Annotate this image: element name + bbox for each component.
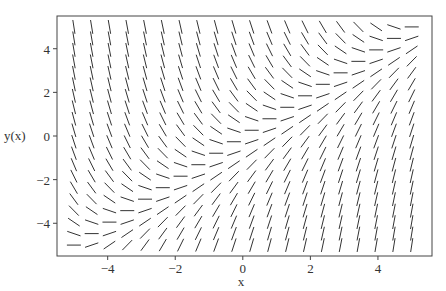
plot-frame [57,16,432,256]
slope-segment [160,89,165,102]
slope-segment [316,94,329,99]
slope-segment [408,67,416,78]
slope-segment [247,91,257,101]
slope-segment [193,125,203,135]
slope-segment [285,181,290,194]
slope-segment [212,102,220,113]
slope-segment [140,160,150,170]
slope-segment [177,113,184,125]
y-tick-label: 0 [44,129,51,144]
slope-segment [231,67,237,80]
slope-segment [71,158,76,171]
slope-segment [159,136,167,147]
slope-segment [283,148,291,159]
slope-segment [104,241,116,249]
slope-segment [301,44,309,55]
slope-segment [193,138,205,146]
slope-segment [391,101,397,114]
slope-segment [409,101,414,114]
slope-segment [71,147,76,160]
slope-segment [371,79,381,89]
y-tick-label: −4 [36,216,50,231]
slope-segment [122,240,132,250]
slope-segment [372,90,380,101]
slope-segment [388,57,400,65]
slope-segment [390,90,397,102]
slope-segment [88,182,96,193]
slope-segment [409,90,415,103]
slope-segment [139,218,151,226]
slope-segment [69,206,79,216]
slope-segment [210,172,222,180]
slope-segment [373,101,380,113]
slope-segment [282,68,292,78]
slope-segment [211,114,221,124]
slope-segment [302,21,308,34]
slope-segment [227,151,240,156]
slope-segment [249,43,254,56]
slope-segment [160,112,166,125]
slope-segment [213,227,218,240]
slope-segment [353,91,363,101]
slope-segment [407,56,417,66]
slope-segment [160,101,165,114]
slope-segment [139,172,151,180]
slope-segment [264,92,276,100]
slope-segment [176,206,186,216]
slope-segment [336,113,344,124]
slope-segment [370,36,383,41]
slope-segment [232,238,236,251]
slope-segment [337,124,344,136]
slope-segment [107,124,112,137]
slope-segment [265,159,273,170]
slope-segment [210,126,222,134]
slope-segment [107,135,112,148]
slope-segment [232,227,237,240]
slope-segment [143,101,148,114]
slope-segment [194,113,202,124]
y-tick-label: 4 [44,42,51,57]
slope-segment [106,159,113,171]
slope-segment [138,208,151,213]
slope-segment [210,162,223,167]
slope-segment [264,138,276,146]
slope-segment [281,126,293,134]
slope-segment [267,204,272,217]
slope-segment [89,147,94,160]
slope-segment [230,78,237,90]
slope-segment [248,171,256,182]
slope-segment [122,171,132,181]
slope-segment [267,193,272,206]
slope-segment [353,80,365,88]
slope-segment [246,103,258,111]
slope-segment [318,45,328,55]
slope-segment [213,66,218,79]
slope-segment [265,79,275,89]
slope-segment [334,82,347,87]
slope-segment [141,136,148,148]
slope-segment [317,103,329,111]
slope-segment [299,115,311,123]
slope-segment [156,197,169,202]
slope-segment [231,216,236,229]
slope-segment [156,174,169,179]
slope-segment [354,102,362,113]
slope-segment [265,148,275,158]
slope-segment [320,170,325,183]
slope-segment [142,124,148,137]
slope-segment [249,55,255,68]
slope-segment [231,55,236,68]
slope-segment [316,71,329,76]
slope-segment [334,59,347,64]
slope-segment [267,20,272,33]
slope-segment [338,135,344,148]
slope-segment [284,44,291,56]
slope-segment [159,239,166,251]
slope-segment [141,148,149,159]
slope-segment [67,231,80,236]
slope-segment [140,229,150,239]
slope-segment [373,124,378,137]
slope-segment [246,149,258,157]
slope-segment [302,170,307,183]
slope-segment [405,36,418,41]
